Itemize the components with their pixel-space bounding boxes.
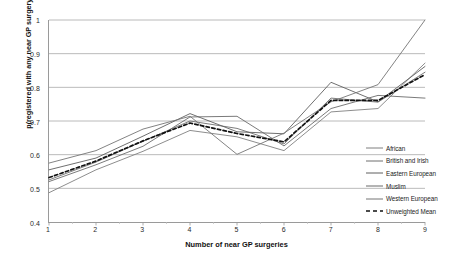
y-axis-tick-label: 1 xyxy=(36,17,40,24)
legend-item[interactable]: Western European xyxy=(366,192,452,205)
x-axis-tick-label: 2 xyxy=(93,226,97,233)
x-axis-tick-label: 5 xyxy=(235,226,239,233)
legend-label: British and Irish xyxy=(386,157,429,164)
x-axis-tick-label: 8 xyxy=(376,226,380,233)
legend-item[interactable]: African xyxy=(366,142,452,155)
legend-item[interactable]: Unweighted Mean xyxy=(366,205,452,218)
chart-container: 0.40.50.60.70.80.91 p(registered with an… xyxy=(0,0,453,263)
x-axis-title: Number of near GP surgeries xyxy=(48,240,425,249)
x-axis-tick-label: 4 xyxy=(187,226,191,233)
legend-label: Western European xyxy=(386,195,438,202)
x-axis-tick-label: 1 xyxy=(46,226,50,233)
y-axis-tick-label: 0.4 xyxy=(30,220,40,227)
legend-label: Eastern European xyxy=(386,170,436,177)
y-axis-tick-label: 0.6 xyxy=(30,152,40,159)
x-axis-tick-label: 3 xyxy=(140,226,144,233)
legend-line-swatch-icon xyxy=(366,169,383,177)
legend-line-swatch-icon xyxy=(366,195,383,203)
y-axis-tick-label: 0.5 xyxy=(30,186,40,193)
x-axis-tick-label: 9 xyxy=(423,226,427,233)
legend-label: Muslim xyxy=(386,183,406,190)
x-axis-tick-label: 7 xyxy=(329,226,333,233)
legend-line-swatch-icon xyxy=(366,182,383,190)
legend-line-swatch-icon xyxy=(366,157,383,165)
legend-item[interactable]: Muslim xyxy=(366,180,452,193)
legend-item[interactable]: Eastern European xyxy=(366,167,452,180)
legend-label: Unweighted Mean xyxy=(386,208,436,215)
chart-legend: AfricanBritish and IrishEastern European… xyxy=(366,142,452,218)
legend-line-swatch-icon xyxy=(366,207,383,215)
x-axis-tick-label: 6 xyxy=(282,226,286,233)
y-axis-title: p(registered with any near GP surgery) xyxy=(24,0,33,143)
legend-line-swatch-icon xyxy=(366,144,383,152)
x-axis-tick-labels: 123456789 xyxy=(48,226,425,240)
legend-label: African xyxy=(386,145,405,152)
legend-item[interactable]: British and Irish xyxy=(366,155,452,168)
